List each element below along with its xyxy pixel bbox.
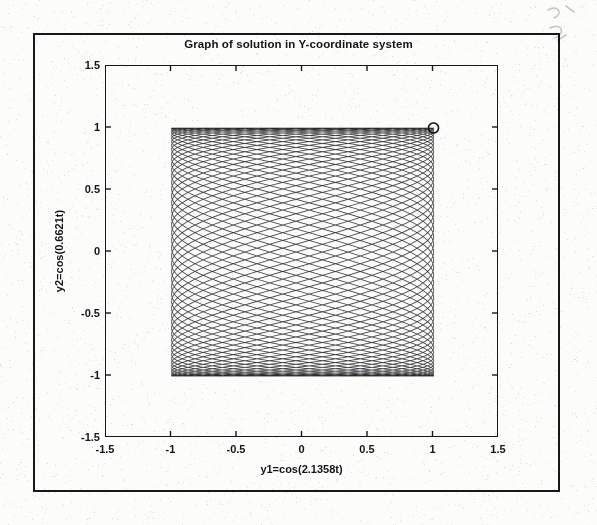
y-tick-label: 0.5 — [85, 183, 100, 195]
y-tick-label: 1.5 — [85, 59, 100, 71]
lissajous-curve-plot — [106, 66, 499, 438]
y-tick-label: 0 — [94, 245, 100, 257]
x-tick-label: -1 — [166, 443, 176, 455]
y-axis-tick-labels: 1.510.50-0.5-1-1.5 — [62, 65, 100, 437]
x-tick-label: 0 — [298, 443, 304, 455]
y-tick-label: -0.5 — [81, 307, 100, 319]
x-tick-label: -1.5 — [96, 443, 115, 455]
y-tick-label: -1 — [90, 369, 100, 381]
x-axis-tick-labels: -1.5-1-0.500.511.5 — [105, 443, 498, 461]
plot-axes-box — [105, 65, 498, 437]
y-axis-label: y2=cos(0.6621t) — [53, 210, 65, 292]
x-tick-label: -0.5 — [227, 443, 246, 455]
figure-title: Graph of solution in Y-coordinate system — [0, 38, 597, 50]
x-tick-label: 1 — [429, 443, 435, 455]
x-axis-label: y1=cos(2.1358t) — [105, 463, 498, 475]
x-tick-label: 1.5 — [490, 443, 505, 455]
y-axis-label-wrapper: y2=cos(0.6621t) — [46, 65, 62, 437]
y-tick-label: -1.5 — [81, 431, 100, 443]
x-tick-label: 0.5 — [359, 443, 374, 455]
y-tick-label: 1 — [94, 121, 100, 133]
